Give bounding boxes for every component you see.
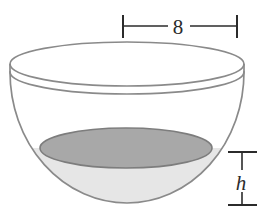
width-dimension: 8 [123,15,237,39]
bowl-diagram-svg: 8 h [0,0,264,215]
width-dimension-label: 8 [173,15,184,39]
height-dimension: h [228,152,257,205]
geometry-figure: 8 h [0,0,264,215]
liquid-surface-ellipse [40,128,212,168]
height-dimension-label: h [236,171,247,195]
